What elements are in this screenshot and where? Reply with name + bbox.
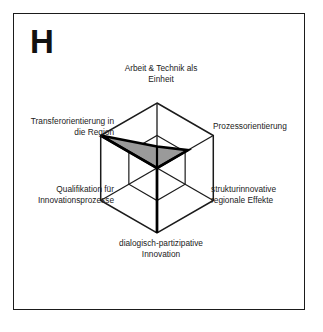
radar-chart [0,0,323,332]
axis-label-arbeit-technik-line2: Einheit [106,74,216,85]
axis-label-qualifikation: Qualifikation für Innovationsprozesse [6,184,114,206]
axis-label-qualifikation-line1: Qualifikation für [6,184,114,195]
axis-label-prozessorientierung-line1: Prozessorientierung [213,121,317,132]
axis-label-strukturinnovative-line2: regionale Effekte [211,195,315,206]
axis-label-transferorientierung: Transferorientierung in die Region [2,116,114,138]
axis-label-qualifikation-line2: Innovationsprozesse [6,195,114,206]
axis-label-transferorientierung-line1: Transferorientierung in [2,116,114,127]
axis-label-dialogisch-partizipative-line1: dialogisch-partizipative [101,238,221,249]
axis-label-arbeit-technik: Arbeit & Technik als Einheit [106,63,216,85]
axis-label-strukturinnovative: strukturinnovative regionale Effekte [211,184,315,206]
axis-label-strukturinnovative-line1: strukturinnovative [211,184,315,195]
axis-label-arbeit-technik-line1: Arbeit & Technik als [106,63,216,74]
axis-label-dialogisch-partizipative-line2: Innovation [101,249,221,260]
axis-label-dialogisch-partizipative: dialogisch-partizipative Innovation [101,238,221,260]
axis-label-prozessorientierung: Prozessorientierung [213,121,317,132]
axis-label-transferorientierung-line2: die Region [2,127,114,138]
figure-root: H Arbeit & Technik als Einheit Prozessor… [0,0,323,332]
